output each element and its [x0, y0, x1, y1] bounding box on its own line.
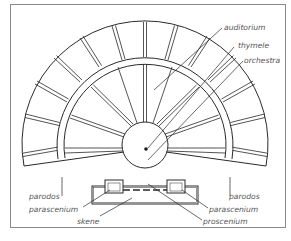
- label-orchestra: orchestra: [244, 56, 280, 65]
- label-parascenium-left: parascenium: [28, 205, 78, 214]
- thymele-altar: [144, 147, 148, 151]
- label-auditorium: auditorium: [224, 23, 265, 32]
- label-parodos-left: parodos: [28, 192, 60, 201]
- label-parascenium-right: parascenium: [208, 205, 258, 214]
- label-skene: skene: [77, 217, 100, 226]
- orchestra-circle: [122, 122, 168, 168]
- auditorium-edge-right: [166, 152, 266, 166]
- leader-lines: [62, 28, 243, 220]
- skene-building: [92, 180, 198, 204]
- upper-aisles: [23, 22, 268, 157]
- label-proscenium: proscenium: [202, 217, 248, 226]
- greek-theatre-diagram: auditorium thymele orchestra parodos par…: [0, 0, 291, 241]
- auditorium-edge-left: [24, 152, 124, 166]
- label-thymele: thymele: [238, 41, 269, 50]
- label-parodos-right: parodos: [228, 192, 260, 201]
- diazoma-outer: [57, 58, 233, 159]
